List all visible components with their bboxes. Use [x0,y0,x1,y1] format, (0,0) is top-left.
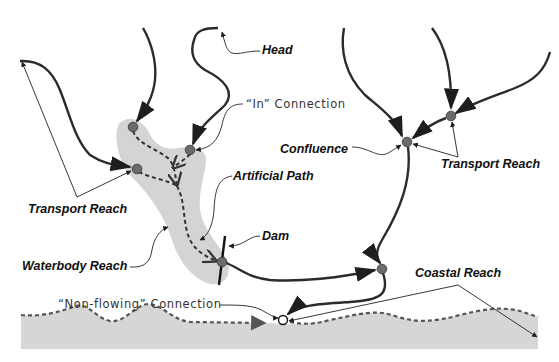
node-confluence [402,137,412,147]
node-left-junction [132,164,142,174]
label-head: Head [262,43,293,57]
label-artificial-path: Artificial Path [233,169,314,183]
node-in-connection [185,145,195,155]
node-non-flowing [279,316,288,325]
node-upper-right-junction [446,111,456,121]
leader-lines [22,32,537,337]
label-coastal-reach: Coastal Reach [415,266,501,280]
node-upper-left-junction [128,122,138,132]
label-confluence: Confluence [280,142,348,156]
node-lower-right-junction [377,264,387,274]
label-transport-reach-right: Transport Reach [441,157,540,171]
label-dam: Dam [262,229,289,243]
label-in-connection: “In” Connection [246,97,346,111]
label-waterbody-reach: Waterbody Reach [22,259,127,273]
label-transport-reach-left: Transport Reach [28,202,127,216]
node-dam [217,257,227,267]
label-non-flowing-connection: “Non-flowing” Connection [58,297,222,311]
